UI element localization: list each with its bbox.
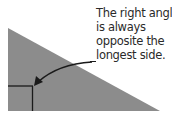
annotation-line-4: longest side. [96,48,172,62]
annotation-line-2: is always [96,20,172,34]
annotation-line-1: The right angle [96,6,172,20]
annotation-text: The right angle is always opposite the l… [96,6,172,62]
annotation-line-3: opposite the [96,34,172,48]
